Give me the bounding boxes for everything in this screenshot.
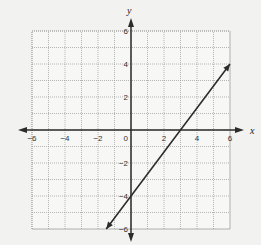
x-tick-label: −6 <box>27 134 37 143</box>
x-tick-label: 6 <box>228 134 233 143</box>
y-tick-label: 2 <box>124 93 129 102</box>
y-tick-label: −6 <box>119 225 129 234</box>
y-tick-label: −4 <box>119 192 129 201</box>
x-tick-label: −2 <box>93 134 103 143</box>
x-axis-left-arrow <box>18 127 27 133</box>
y-axis-up-arrow <box>128 18 134 27</box>
x-tick-label: −4 <box>60 134 70 143</box>
x-tick-label: 2 <box>162 134 167 143</box>
x-tick-label: 4 <box>195 134 200 143</box>
y-tick-label: 6 <box>124 27 129 36</box>
y-axis-down-arrow <box>128 233 134 242</box>
y-axis-label: y <box>126 5 132 16</box>
x-axis-right-arrow <box>235 127 244 133</box>
coordinate-plane: xy−6−4−2246642−2−4−60 <box>0 0 261 245</box>
origin-label: 0 <box>124 134 129 143</box>
y-tick-label: 4 <box>124 60 129 69</box>
y-tick-label: −2 <box>119 159 129 168</box>
x-axis-label: x <box>249 125 255 136</box>
